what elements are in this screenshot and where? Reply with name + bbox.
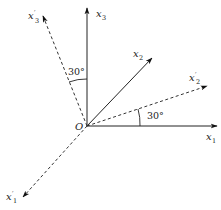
x1-prime-label: x ′ 1 [6,190,17,205]
origin-label: O [75,121,83,132]
x3-label: x 3 [96,8,106,22]
svg-text:3: 3 [102,14,106,22]
x2-label: x 2 [133,48,143,62]
x2-axis [87,58,152,126]
angle-label-right: 30° [147,110,164,121]
coordinate-rotation-diagram: 30° 30° O x 3 x ′ 3 x 2 x ′ 2 x 1 x ′ 1 [0,0,221,210]
x1-label: x 1 [206,131,216,145]
svg-text:1: 1 [212,137,216,145]
x1-prime-axis [23,126,87,197]
svg-text:2: 2 [139,54,143,62]
angle-arc-x1-x2prime [138,109,140,126]
x2-prime-label: x ′ 2 [189,71,200,86]
x3-prime-label: x ′ 3 [28,9,39,25]
angle-arc-x3-x3prime [69,79,87,82]
svg-text:′: ′ [34,9,36,17]
svg-text:1: 1 [13,197,17,205]
angle-label-top: 30° [68,66,85,77]
svg-text:2: 2 [196,78,200,86]
svg-text:3: 3 [35,17,39,25]
